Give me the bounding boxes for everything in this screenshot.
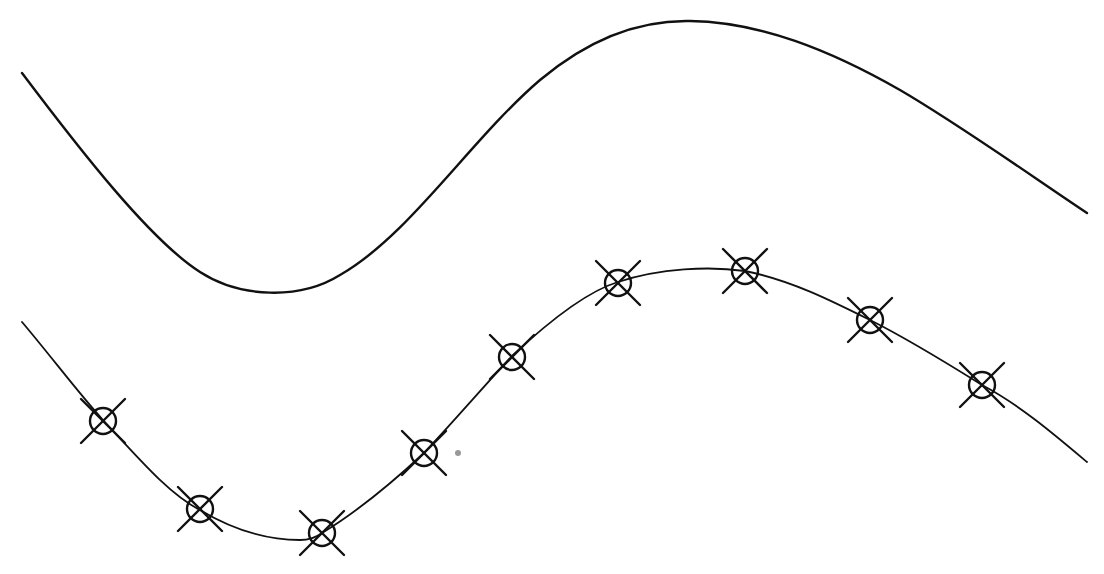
markers-group <box>81 249 1004 555</box>
stray-dot <box>455 450 461 456</box>
circle-x-marker <box>178 487 222 531</box>
curves-group <box>22 21 1087 540</box>
circle-x-marker <box>402 431 446 475</box>
diagram-canvas <box>0 0 1104 574</box>
sine-curves-diagram <box>0 0 1104 574</box>
circle-x-marker <box>596 261 640 305</box>
extras-group <box>455 450 461 456</box>
lower-curve <box>22 269 1087 540</box>
circle-x-marker <box>490 335 534 379</box>
circle-x-marker <box>723 249 767 293</box>
upper-curve <box>22 21 1087 293</box>
circle-x-marker <box>848 298 892 342</box>
circle-x-marker <box>300 511 344 555</box>
circle-x-marker <box>960 363 1004 407</box>
circle-x-marker <box>81 399 125 443</box>
